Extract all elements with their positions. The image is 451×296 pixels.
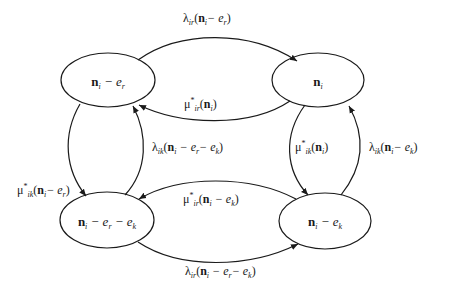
- edge-label-tl-to-tr: λir(ni− er): [183, 12, 231, 24]
- edge-arrow-bl-to-br: [138, 242, 298, 263]
- edge-label-br-to-tr: λik(ni− ek): [369, 141, 418, 153]
- edge-arrow-br-to-tr: [341, 106, 360, 195]
- edge-label-br-to-bl: μ*ir(ni − ek): [183, 193, 239, 205]
- edge-label-tr-to-tl: μ*ir(ni): [184, 98, 217, 110]
- node-label-br: ni − ek: [308, 215, 342, 228]
- edge-label-tl-to-bl: μ*ik(ni− er): [17, 184, 70, 196]
- node-label-tr: ni: [313, 75, 322, 88]
- edge-arrow-bl-to-tl: [125, 106, 143, 195]
- edge-label-bl-to-tl: λik(ni − er− ek): [152, 141, 223, 153]
- edge-label-tr-to-br: μ*ik(ni): [295, 141, 328, 153]
- node-label-tl: ni − er: [91, 75, 125, 88]
- edge-arrow-tl-to-tr: [138, 38, 297, 61]
- node-label-bl: ni − er − ek: [78, 215, 136, 228]
- edge-label-bl-to-br: λir(ni − er− ek): [185, 265, 256, 277]
- edge-arrow-tl-to-bl: [68, 104, 86, 196]
